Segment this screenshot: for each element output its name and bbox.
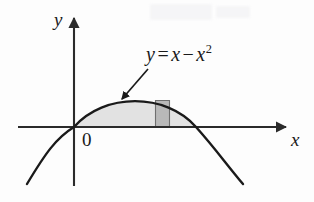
equation-term2-base: x [196, 43, 205, 65]
equation-lhs: y [146, 43, 155, 65]
curve-equation-label: y=x−x2 [146, 44, 212, 64]
equation-term2-exponent: 2 [206, 42, 213, 56]
equation-minus: − [181, 43, 197, 65]
graph-svg [0, 0, 314, 202]
origin-label: 0 [82, 130, 92, 149]
x-axis-label: x [291, 130, 299, 149]
shaded-area-under-curve [74, 102, 196, 128]
equation-term1: x [171, 43, 180, 65]
figure-canvas: y=x−x2 y x 0 [0, 0, 314, 202]
y-axis-label: y [54, 10, 62, 29]
arrow-to-curve-icon [122, 69, 148, 99]
equation-equals: = [155, 43, 171, 65]
